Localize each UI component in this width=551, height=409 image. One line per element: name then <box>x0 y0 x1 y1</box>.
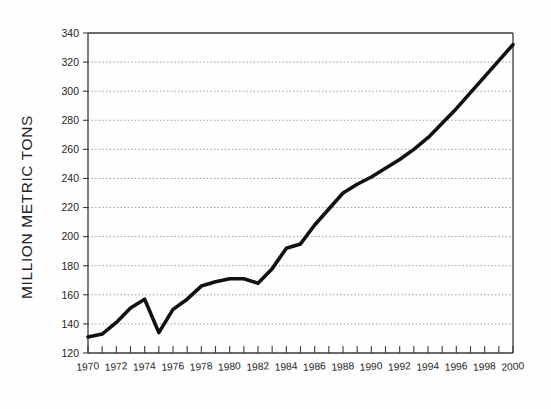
x-axis-tick-label: 1994 <box>416 360 440 373</box>
x-axis-tick-label: 1970 <box>76 360 100 373</box>
x-axis-tick-label: 1984 <box>274 360 298 373</box>
y-axis-tick-label: 160 <box>61 289 79 301</box>
y-axis-tick-label: 180 <box>61 260 79 272</box>
y-axis-tick-label: 260 <box>61 143 79 155</box>
x-axis-tick-label: 2000 <box>501 360 525 373</box>
x-axis-tick-label: 1982 <box>246 360 270 373</box>
y-axis-tick-label: 300 <box>61 85 79 97</box>
x-axis-tick-label: 1998 <box>473 360 497 373</box>
x-axis-tick-label: 1992 <box>388 360 412 373</box>
y-axis-tick-label: 220 <box>61 201 79 213</box>
x-axis-tick-label: 1980 <box>218 360 242 373</box>
x-axis-tick-label: 1972 <box>104 360 128 373</box>
x-axis-tick-label: 1976 <box>161 360 185 373</box>
x-axis-tick-label: 1974 <box>133 360 157 373</box>
y-axis-title: MILLION METRIC TONS <box>18 115 35 299</box>
y-axis-tick-label: 280 <box>61 114 79 126</box>
x-axis-tick-label: 1990 <box>359 360 383 373</box>
x-axis-tick-label: 1986 <box>303 360 327 373</box>
x-axis-tick-label: 1988 <box>331 360 355 373</box>
y-axis-tick-label: 340 <box>61 27 79 39</box>
x-axis-tick-label: 1996 <box>444 360 468 373</box>
line-chart: 120140160180200220240260280300320340 197… <box>0 0 551 409</box>
y-axis-tick-label: 200 <box>61 230 79 242</box>
chart-figure: 120140160180200220240260280300320340 197… <box>0 0 551 409</box>
y-axis-tick-label: 320 <box>61 56 79 68</box>
y-axis-tick-label: 120 <box>61 347 79 359</box>
chart-background <box>0 0 551 409</box>
y-axis-tick-label: 240 <box>61 172 79 184</box>
x-axis-tick-label: 1978 <box>189 360 213 373</box>
y-axis-tick-label: 140 <box>61 318 79 330</box>
